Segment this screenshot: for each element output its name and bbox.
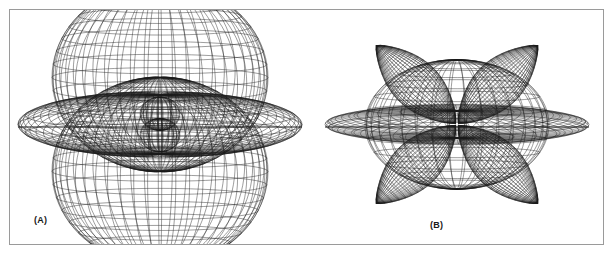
figure-root: (A) (B)	[0, 0, 615, 257]
panel-a-wireframe-plot	[10, 10, 310, 244]
panel-b-wireframe-plot	[310, 10, 603, 244]
figure-frame: (A) (B)	[9, 9, 604, 245]
panel-b: (B)	[310, 10, 603, 244]
panel-b-label: (B)	[430, 220, 443, 230]
panel-a-label: (A)	[34, 215, 47, 225]
panel-a: (A)	[10, 10, 310, 244]
